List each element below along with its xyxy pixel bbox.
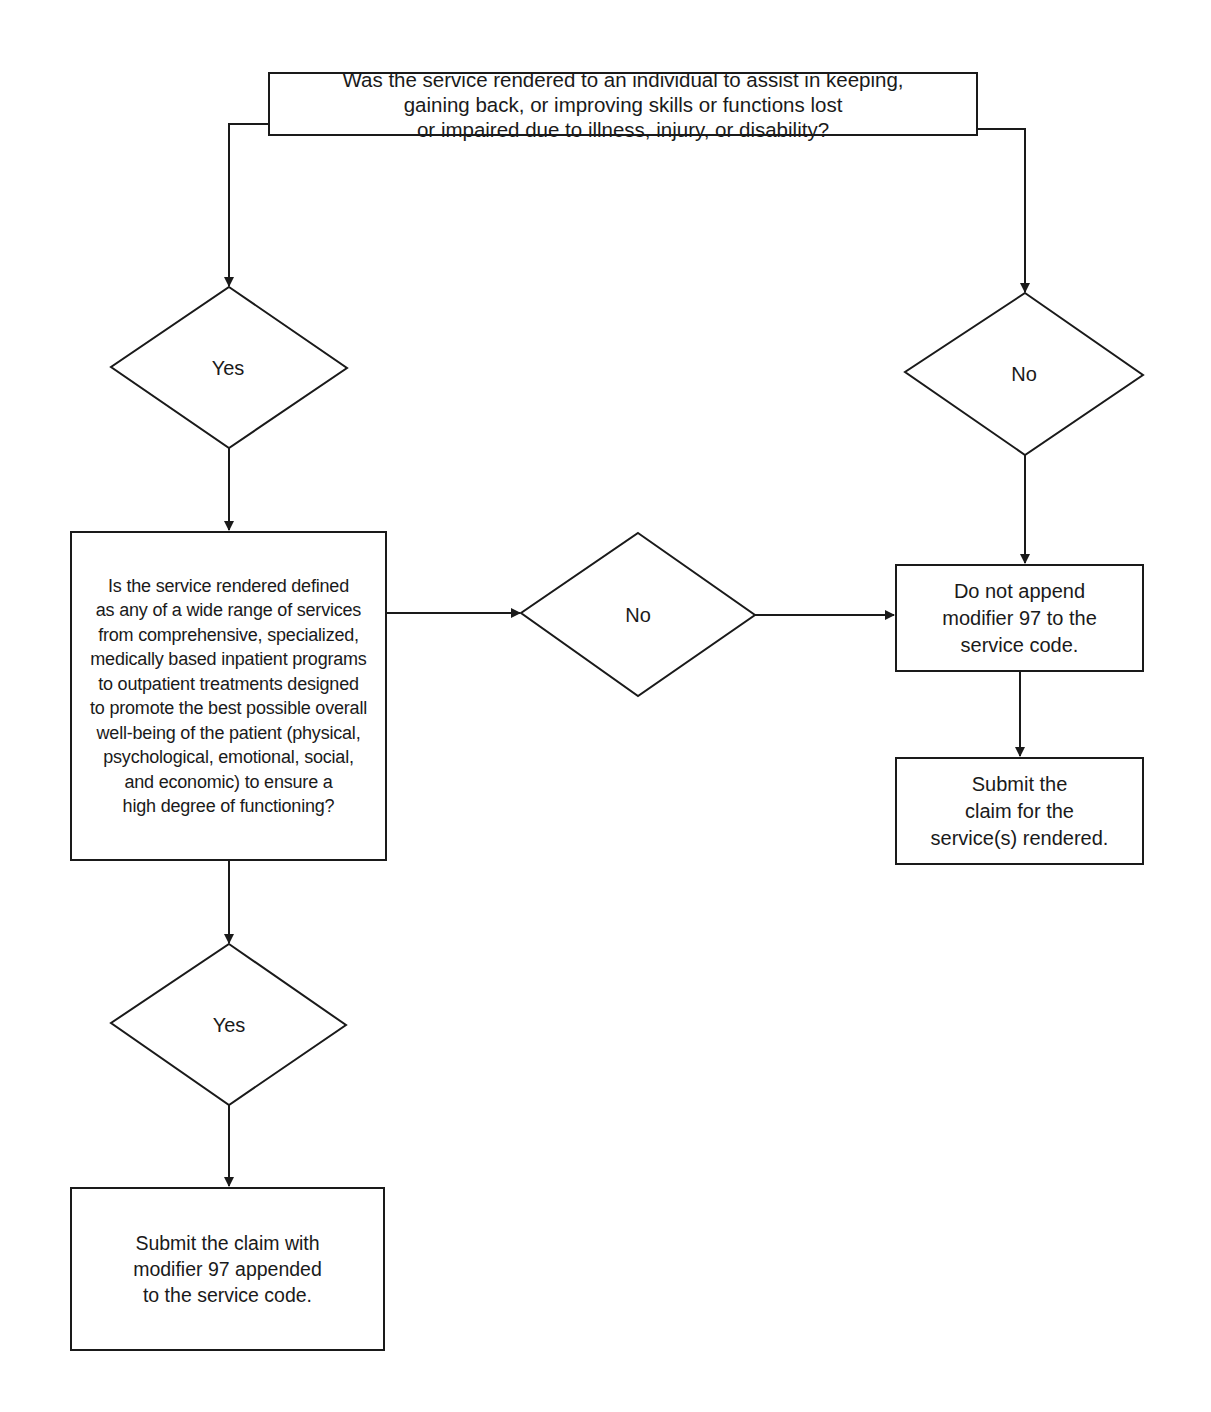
connector-start-to-yes	[229, 124, 268, 286]
submit-claim-modifier-box: Submit the claim with modifier 97 append…	[70, 1187, 385, 1351]
do-not-append-box: Do not append modifier 97 to the service…	[895, 564, 1144, 672]
decision-yes-2-label: Yes	[213, 1014, 246, 1037]
rehab-definition-question-box: Is the service rendered defined as any o…	[70, 531, 387, 861]
start-question-box: Was the service rendered to an individua…	[268, 72, 978, 136]
decision-no-2-label: No	[625, 604, 651, 627]
do-not-append-text: Do not append modifier 97 to the service…	[942, 578, 1097, 659]
rehab-definition-question-text: Is the service rendered defined as any o…	[90, 574, 367, 819]
connector-start-to-no	[977, 129, 1025, 292]
decision-yes-1-label: Yes	[212, 357, 245, 380]
start-question-text: Was the service rendered to an individua…	[342, 67, 903, 142]
decision-no-1-label: No	[1011, 363, 1037, 386]
submit-claim-plain-text: Submit the claim for the service(s) rend…	[931, 771, 1109, 852]
submit-claim-modifier-text: Submit the claim with modifier 97 append…	[133, 1230, 322, 1308]
submit-claim-plain-box: Submit the claim for the service(s) rend…	[895, 757, 1144, 865]
